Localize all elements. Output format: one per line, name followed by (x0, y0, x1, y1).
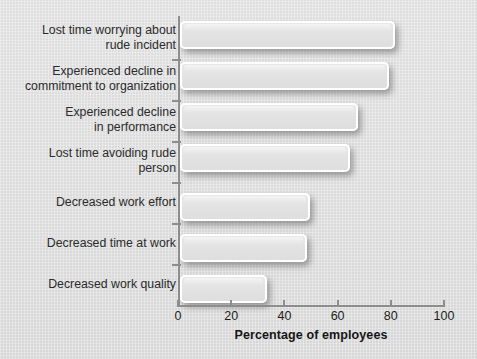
category-label-3: Lost time avoiding rude person (4, 146, 176, 175)
x-axis-title: Percentage of employees (178, 328, 444, 342)
x-tick-label-0: 0 (158, 309, 198, 323)
category-label-0: Lost time worrying about rude incident (4, 23, 176, 52)
bar-0[interactable] (180, 21, 395, 49)
category-label-6: Decreased work quality (4, 277, 176, 292)
category-label-4: Decreased work effort (4, 195, 176, 210)
bar-5[interactable] (180, 234, 307, 262)
bar-2[interactable] (180, 103, 358, 131)
y-tick-2 (172, 141, 181, 143)
y-tick-3 (172, 182, 181, 184)
bar-4[interactable] (180, 193, 310, 221)
x-tick-3 (337, 300, 339, 307)
x-tick-label-4: 80 (371, 309, 411, 323)
bar-3[interactable] (180, 144, 350, 172)
x-tick-4 (390, 300, 392, 307)
bar-1[interactable] (180, 62, 389, 90)
y-tick-4 (172, 223, 181, 225)
category-label-1: Experienced decline in commitment to org… (4, 64, 176, 93)
x-tick-label-2: 40 (264, 309, 304, 323)
plot-area: Lost time worrying about rude incident E… (0, 0, 477, 359)
bar-chart: Lost time worrying about rude incident E… (0, 0, 477, 359)
bar-6[interactable] (180, 275, 267, 303)
y-tick-5 (172, 264, 181, 266)
x-tick-label-1: 20 (211, 309, 251, 323)
x-tick-2 (283, 300, 285, 307)
x-tick-1 (230, 300, 232, 307)
x-tick-label-3: 60 (318, 309, 358, 323)
y-tick-0 (172, 59, 181, 61)
category-label-2: Experienced decline in performance (4, 105, 176, 134)
category-label-5: Decreased time at work (4, 236, 176, 251)
y-tick-1 (172, 100, 181, 102)
x-tick-label-5: 100 (424, 309, 464, 323)
x-tick-0 (177, 300, 179, 307)
x-axis-line (178, 305, 444, 307)
x-tick-5 (443, 300, 445, 307)
